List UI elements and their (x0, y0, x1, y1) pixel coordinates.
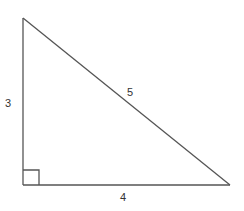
triangle (23, 18, 230, 185)
right-angle-marker (23, 170, 39, 185)
hypotenuse-label: 5 (127, 86, 133, 98)
vertical-leg-label: 3 (5, 97, 11, 109)
horizontal-leg-label: 4 (120, 191, 126, 203)
right-triangle-diagram: 3 5 4 (0, 0, 244, 211)
hypotenuse-line (23, 18, 230, 185)
